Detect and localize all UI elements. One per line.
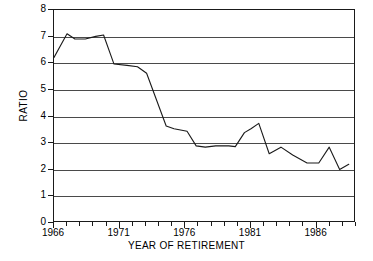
x-tick-mark-1984 <box>289 222 290 226</box>
x-tick-mark-1974 <box>158 222 159 226</box>
x-tick-label-1966: 1966 <box>33 227 73 238</box>
y-tick-label-2: 2 <box>28 164 46 174</box>
x-tick-mark-1975 <box>171 222 172 226</box>
x-tick-label-1981: 1981 <box>230 227 270 238</box>
plot-area <box>53 9 355 222</box>
x-tick-label-1971: 1971 <box>99 227 139 238</box>
x-tick-mark-1972 <box>132 222 133 226</box>
x-tick-label-1986: 1986 <box>296 227 336 238</box>
chart-figure: RATIO 012345678 19661971197619811986 YEA… <box>0 0 373 261</box>
y-tick-label-6: 6 <box>28 57 46 67</box>
x-tick-mark-1973 <box>145 222 146 226</box>
x-tick-mark-1969 <box>92 222 93 226</box>
x-tick-mark-1978 <box>211 222 212 226</box>
x-tick-mark-1968 <box>79 222 80 226</box>
y-tick-label-8: 8 <box>28 4 46 14</box>
x-tick-mark-1977 <box>197 222 198 226</box>
x-tick-mark-1980 <box>237 222 238 226</box>
y-tick-label-0: 0 <box>28 217 46 227</box>
x-tick-mark-1970 <box>106 222 107 226</box>
y-tick-label-4: 4 <box>28 111 46 121</box>
x-tick-mark-1989 <box>355 222 356 226</box>
x-tick-label-1976: 1976 <box>164 227 204 238</box>
x-tick-mark-1982 <box>263 222 264 226</box>
x-tick-mark-1988 <box>342 222 343 226</box>
x-tick-mark-1979 <box>224 222 225 226</box>
x-tick-mark-1967 <box>66 222 67 226</box>
y-tick-label-3: 3 <box>28 137 46 147</box>
y-axis-title: RATIO <box>18 76 29 136</box>
x-axis-title: YEAR OF RETIREMENT <box>0 240 373 251</box>
x-tick-mark-1987 <box>329 222 330 226</box>
y-tick-label-5: 5 <box>28 84 46 94</box>
y-tick-label-1: 1 <box>28 190 46 200</box>
data-line-series <box>54 10 354 221</box>
x-tick-mark-1985 <box>302 222 303 226</box>
x-tick-mark-1983 <box>276 222 277 226</box>
y-tick-label-7: 7 <box>28 31 46 41</box>
